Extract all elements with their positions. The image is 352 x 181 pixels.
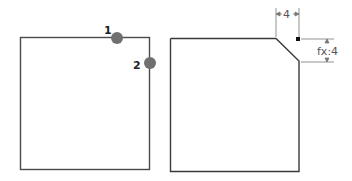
point-1-label: 1	[104, 24, 112, 37]
left-square	[21, 38, 150, 170]
point-2[interactable]	[144, 57, 156, 69]
horizontal-dimension-value[interactable]: 4	[283, 8, 290, 21]
vertical-dimension-value[interactable]: fx:4	[317, 45, 338, 58]
diagram-canvas: 1 2 4 fx:4	[0, 0, 352, 181]
right-figure: 4 fx:4	[171, 8, 339, 172]
point-1[interactable]	[111, 32, 123, 44]
point-2-label: 2	[133, 59, 141, 72]
chamfered-square	[171, 39, 300, 172]
left-figure: 1 2	[21, 24, 157, 170]
corner-marker[interactable]	[296, 37, 300, 41]
